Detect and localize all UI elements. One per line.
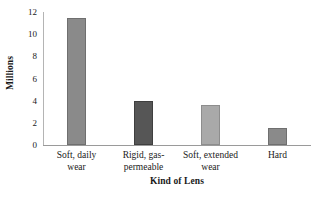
x-tick-label-line: Rigid, gas- bbox=[110, 150, 177, 162]
x-tick-label: Rigid, gas-permeable bbox=[110, 150, 177, 173]
x-tick-label: Soft, extendedwear bbox=[177, 150, 244, 173]
plot-area bbox=[43, 12, 311, 146]
bars-layer bbox=[43, 12, 311, 146]
x-tick-label-line: wear bbox=[43, 162, 110, 174]
y-tick-label: 4 bbox=[33, 96, 38, 105]
bar bbox=[134, 101, 153, 145]
x-tick-label-line: Soft, extended bbox=[177, 150, 244, 162]
x-tick-label-line: wear bbox=[177, 162, 244, 174]
x-tick-label-line: permeable bbox=[110, 162, 177, 174]
y-tick-label: 6 bbox=[33, 74, 38, 83]
x-axis-line bbox=[43, 145, 311, 146]
bar bbox=[268, 128, 287, 145]
bar bbox=[201, 105, 220, 145]
x-tick-label-line: Soft, daily bbox=[43, 150, 110, 162]
y-axis-title: Millions bbox=[0, 0, 20, 146]
y-tick-label: 2 bbox=[33, 118, 38, 127]
y-tick-label: 12 bbox=[28, 8, 37, 17]
y-axis-title-label: Millions bbox=[5, 56, 15, 90]
x-axis-tick-labels: Soft, dailywearRigid, gas-permeableSoft,… bbox=[43, 150, 311, 176]
bar bbox=[67, 18, 86, 145]
bar-chart: Millions 024681012 Soft, dailywearRigid,… bbox=[0, 0, 323, 203]
x-tick-label: Hard bbox=[244, 150, 311, 162]
x-axis-title: Kind of Lens bbox=[43, 176, 311, 186]
y-tick-label: 0 bbox=[33, 141, 38, 150]
x-tick-label: Soft, dailywear bbox=[43, 150, 110, 173]
y-axis-tick-labels: 024681012 bbox=[20, 12, 40, 146]
x-tick-label-line: Hard bbox=[244, 150, 311, 162]
y-tick-label: 10 bbox=[28, 30, 37, 39]
y-tick-label: 8 bbox=[33, 52, 38, 61]
